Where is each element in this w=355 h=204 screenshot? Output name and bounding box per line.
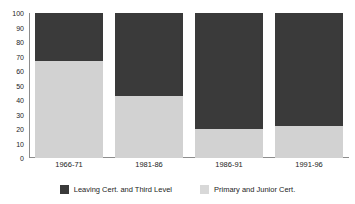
stacked-bar-chart: 100 90 80 70 60 50 40 30 20 10 0 <box>0 0 355 204</box>
legend-label: Leaving Cert. and Third Level <box>74 185 172 194</box>
legend-swatch-icon <box>60 185 69 194</box>
legend-item-primary-junior[interactable]: Primary and Junior Cert. <box>200 185 295 194</box>
y-tick-label-100: 100 <box>12 10 24 17</box>
y-tick-label-50: 50 <box>16 82 24 89</box>
x-tick-label-1966-71: 1966-71 <box>35 160 103 170</box>
y-tick-label-60: 60 <box>16 68 24 75</box>
bar-segment-leaving-cert[interactable] <box>195 13 263 129</box>
chart-legend: Leaving Cert. and Third Level Primary an… <box>0 182 355 196</box>
x-tick-label-1991-96: 1991-96 <box>275 160 343 170</box>
legend-label: Primary and Junior Cert. <box>214 185 295 194</box>
bar-segment-primary-junior[interactable] <box>195 129 263 158</box>
bar-1981-86[interactable] <box>115 13 183 158</box>
bar-segment-leaving-cert[interactable] <box>275 13 343 126</box>
x-tick-label-1986-91: 1986-91 <box>195 160 263 170</box>
bar-segment-leaving-cert[interactable] <box>115 13 183 96</box>
y-tick-label-30: 30 <box>16 111 24 118</box>
bar-segment-primary-junior[interactable] <box>275 126 343 158</box>
bar-segment-primary-junior[interactable] <box>115 96 183 158</box>
bar-segment-primary-junior[interactable] <box>35 61 103 158</box>
y-axis: 100 90 80 70 60 50 40 30 20 10 0 <box>0 13 26 158</box>
bar-segment-leaving-cert[interactable] <box>35 13 103 61</box>
x-axis: 1966-71 1981-86 1986-91 1991-96 <box>29 160 349 174</box>
bars-layer <box>29 13 349 158</box>
y-tick-label-80: 80 <box>16 39 24 46</box>
x-tick-label-1981-86: 1981-86 <box>115 160 183 170</box>
y-tick-label-40: 40 <box>16 97 24 104</box>
bar-1986-91[interactable] <box>195 13 263 158</box>
legend-swatch-icon <box>200 185 209 194</box>
y-tick-label-0: 0 <box>20 155 24 162</box>
y-tick-label-10: 10 <box>16 140 24 147</box>
y-tick-label-70: 70 <box>16 53 24 60</box>
y-tick-label-90: 90 <box>16 24 24 31</box>
plot-area <box>29 13 349 158</box>
bar-1966-71[interactable] <box>35 13 103 158</box>
y-tick-label-20: 20 <box>16 126 24 133</box>
legend-item-leaving-cert[interactable]: Leaving Cert. and Third Level <box>60 185 172 194</box>
bar-1991-96[interactable] <box>275 13 343 158</box>
